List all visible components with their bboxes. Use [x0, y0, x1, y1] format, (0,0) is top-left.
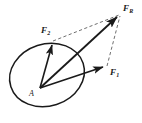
vector-f1-arrow [40, 67, 103, 88]
vector-diagram-canvas [0, 0, 142, 123]
vector-label-f1-subscript: 1 [116, 72, 119, 78]
point-label-a: A [29, 90, 34, 98]
vector-fr-arrow [40, 17, 117, 88]
vector-label-fr: FR [123, 4, 133, 14]
vector-label-fr-subscript: R [129, 8, 133, 14]
force-diagram-figure: FR F2 F1 A [0, 0, 142, 123]
construction-line-parallel-f1 [53, 15, 119, 41]
vector-label-f2: F2 [41, 26, 50, 36]
vector-label-f1: F1 [110, 68, 119, 78]
vector-label-f2-subscript: 2 [47, 30, 50, 36]
